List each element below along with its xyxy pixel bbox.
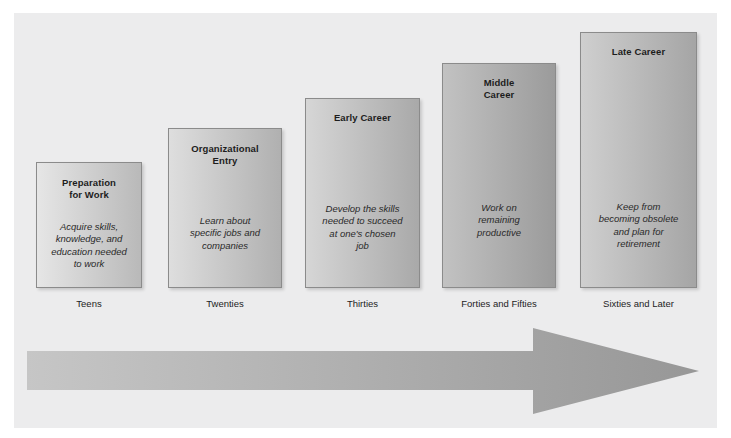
career-stage-description: Develop the skills needed to succeed at … xyxy=(318,203,406,253)
career-stage-description: Learn about specific jobs and companies xyxy=(186,215,264,252)
career-stage-description: Keep from becoming obsolete and plan for… xyxy=(595,201,683,251)
career-path-figure: Preparation for WorkAcquire skills, know… xyxy=(0,0,731,438)
career-stage-content: Organizational EntryLearn about specific… xyxy=(169,129,281,287)
career-stage-title: Organizational Entry xyxy=(191,143,258,167)
career-stage-content: Middle CareerWork on remaining productiv… xyxy=(443,64,555,287)
career-stage-content: Preparation for WorkAcquire skills, know… xyxy=(37,163,141,287)
career-stage-bar: Late CareerKeep from becoming obsolete a… xyxy=(580,32,697,288)
career-stage-bar: Organizational EntryLearn about specific… xyxy=(168,128,282,288)
career-stage-bar: Preparation for WorkAcquire skills, know… xyxy=(36,162,142,288)
career-stage-bar: Middle CareerWork on remaining productiv… xyxy=(442,63,556,288)
career-stage-age-label: Sixties and Later xyxy=(580,298,697,309)
career-stage-description: Acquire skills, knowledge, and education… xyxy=(47,221,131,271)
career-stage-title: Late Career xyxy=(612,46,665,58)
career-stage-age-label: Teens xyxy=(36,298,142,309)
career-stage-content: Early CareerDevelop the skills needed to… xyxy=(306,99,419,287)
career-stage-title: Early Career xyxy=(334,112,391,124)
career-stage-description: Work on remaining productive xyxy=(473,202,525,239)
career-stage-content: Late CareerKeep from becoming obsolete a… xyxy=(581,33,696,287)
career-stage-age-label: Twenties xyxy=(168,298,282,309)
career-stage-age-label: Forties and Fifties xyxy=(442,298,556,309)
linear-career-path-arrow: Linear Career Path xyxy=(27,325,699,417)
career-stage-bar: Early CareerDevelop the skills needed to… xyxy=(305,98,420,288)
arrow-shape xyxy=(27,325,699,417)
career-stage-title: Preparation for Work xyxy=(62,177,116,201)
career-stage-title: Middle Career xyxy=(484,77,515,101)
career-stage-age-label: Thirties xyxy=(305,298,420,309)
